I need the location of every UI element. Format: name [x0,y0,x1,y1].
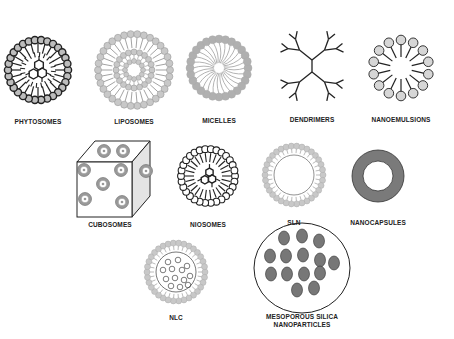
label-niosomes: NIOSOMES [190,221,226,229]
cubosome-icon [77,141,153,217]
label-phytosomes: PHYTOSOMES [15,118,62,126]
sln-icon [262,143,326,207]
label-liposomes: LIPOSOMES [114,118,154,126]
label-mesoporous-line1: MESOPOROUS SILICA [266,313,338,321]
liposome-icon [95,31,174,110]
label-nanoemulsions: NANOEMULSIONS [371,116,430,124]
nlc-icon [144,240,208,304]
label-sln: SLN [287,219,300,227]
label-mesoporous-line2: NANOPARTICLES [274,321,331,329]
micelle-icon [186,35,252,101]
nanocarrier-diagram [0,0,454,339]
niosome-icon [178,146,239,207]
label-micelles: MICELLES [202,117,236,125]
nanoemulsion-icon [369,35,433,101]
dendrimer-icon [280,31,343,101]
label-dendrimers: DENDRIMERS [290,116,335,124]
label-nlc: NLC [169,314,183,322]
phytosome-icon [4,37,71,104]
nanocapsule-icon [352,150,404,202]
label-nanocapsules: NANOCAPSULES [350,219,406,227]
label-cubosomes: CUBOSOMES [88,221,132,229]
mesoporous-silica-icon [254,223,350,313]
